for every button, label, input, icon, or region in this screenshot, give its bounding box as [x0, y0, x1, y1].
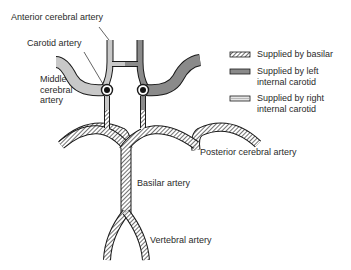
- label-carotid-artery: Carotid artery: [27, 38, 82, 49]
- legend-swatches: [230, 52, 250, 101]
- label-anterior-cerebral-artery: Anterior cerebral artery: [11, 12, 103, 23]
- legend-item-basilar: Supplied by basilar: [257, 49, 333, 60]
- legend-item-left-carotid: Supplied by left internal carotid: [257, 66, 319, 87]
- label-basilar-artery: Basilar artery: [137, 178, 190, 189]
- legend-item-right-carotid: Supplied by right internal carotid: [257, 93, 324, 114]
- anterior-vessels: [104, 40, 146, 88]
- label-middle-cerebral-artery: Middle cerebral artery: [40, 74, 73, 106]
- carotid-artery-sections: [102, 85, 149, 96]
- label-vertebral-artery: Vertebral artery: [150, 235, 212, 246]
- label-posterior-cerebral-artery: Posterior cerebral artery: [200, 147, 297, 158]
